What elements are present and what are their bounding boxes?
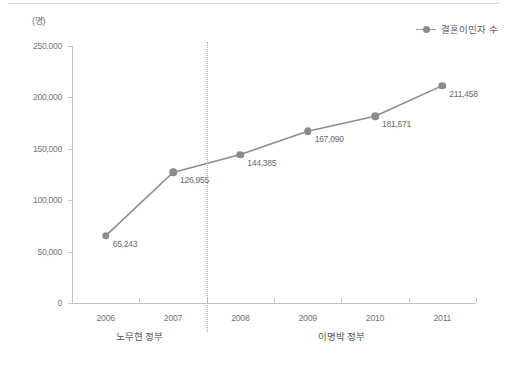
series-polyline-layer [0,0,508,384]
y-axis-tick [68,252,73,253]
x-axis-line [72,303,476,304]
x-axis-tick-label: 2010 [345,313,405,323]
data-point-marker[interactable] [237,151,245,159]
data-point-label: 211,458 [449,89,477,99]
y-axis-tick-label: 50,000 [0,247,62,257]
data-point-label: 167,090 [315,134,344,144]
data-point-label: 65,243 [113,239,138,249]
x-axis-tick [72,298,73,303]
data-point-marker[interactable] [102,232,110,240]
x-axis-tick-label: 2006 [76,313,136,323]
y-axis-tick [68,97,73,98]
data-point-marker[interactable] [439,82,447,90]
y-axis-tick [68,46,73,47]
y-axis-tick [68,303,73,304]
y-axis-line [72,46,73,303]
chart-figure: (명) 결혼이민자 수 050,000100,000150,000200,000… [0,0,508,384]
chart-legend: 결혼이민자 수 [416,22,498,36]
y-axis-tick [68,149,73,150]
data-point-marker[interactable] [304,127,312,135]
x-axis-tick-label: 2007 [143,313,203,323]
y-axis-tick-label: 150,000 [0,144,62,154]
x-axis-tick [274,298,275,303]
y-axis-tick-label: 100,000 [0,195,62,205]
x-axis-tick [409,298,410,303]
y-axis-tick [68,200,73,201]
x-axis-tick [476,298,477,303]
source-note [0,378,498,384]
data-point-label: 144,385 [247,158,276,168]
x-axis-tick-label: 2008 [210,313,270,323]
legend-line-marker-icon [416,25,436,34]
y-axis-tick-label: 200,000 [0,92,62,102]
group-label-1: 노무현 정부 [69,329,209,343]
y-axis-tick-label: 250,000 [0,41,62,51]
group-label-2: 이명박 정부 [271,329,411,343]
y-axis-unit-label: (명) [32,14,45,27]
top-divider [8,3,500,4]
x-axis-tick-label: 2011 [412,313,472,323]
x-axis-tick-label: 2009 [278,313,338,323]
data-point-label: 126,955 [180,175,209,185]
government-period-divider [207,42,208,332]
data-point-marker[interactable] [169,169,177,177]
data-point-label: 181,671 [382,119,411,129]
legend-item-label: 결혼이민자 수 [441,22,498,36]
x-axis-tick [139,298,140,303]
y-axis-tick-label: 0 [0,298,62,308]
data-point-marker[interactable] [371,112,379,120]
x-axis-tick [341,298,342,303]
